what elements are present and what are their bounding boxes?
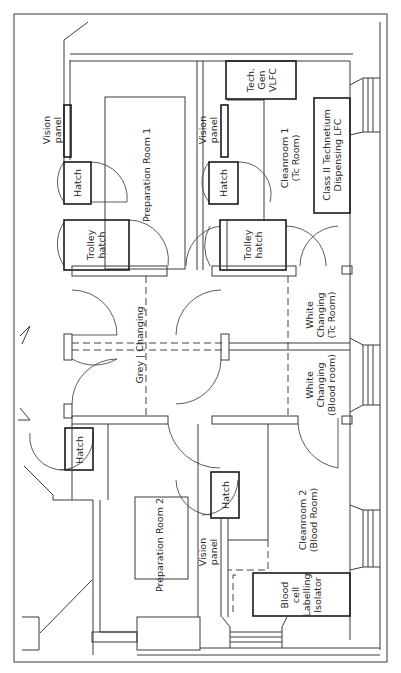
- preparation-room-2-label: Preparation Room 2: [154, 498, 165, 592]
- wall: [221, 334, 229, 360]
- tech-gen-vlfc-label: Tech.GenVLFC: [245, 68, 278, 92]
- wall: [72, 266, 167, 276]
- door-swing: [72, 290, 117, 335]
- door-swing: [57, 220, 168, 266]
- column-moulding: [350, 338, 380, 412]
- cleanroom-2-label: Cleanroom 2(Blood Room): [297, 488, 319, 552]
- door-swing-line: [24, 466, 53, 495]
- door-swing: [168, 424, 220, 468]
- floor-plan: [0, 0, 401, 673]
- door-swing: [202, 162, 271, 202]
- wall: [53, 495, 93, 655]
- wall: [212, 416, 298, 424]
- cleanroom-1-label: Cleanroom 1(Tc Room): [279, 128, 301, 189]
- door-swing-line: [20, 326, 30, 344]
- vision-panel: [221, 105, 228, 157]
- wall: [64, 404, 72, 418]
- wall: [64, 334, 72, 360]
- wall: [92, 632, 137, 642]
- hatch-label: Hatch: [72, 169, 83, 197]
- wall: [137, 617, 200, 650]
- door-swing: [298, 418, 338, 468]
- door-swing: [57, 162, 127, 202]
- trolley-hatch-label: Trolleyhatch: [242, 230, 264, 261]
- wall: [100, 500, 137, 632]
- vision-panel-label: Visionpanel: [41, 116, 63, 144]
- column-moulding: [350, 505, 380, 570]
- white-changing-blood-label: WhiteChanging(Blood room): [304, 354, 337, 416]
- door-swing: [176, 290, 221, 404]
- hatch-label: Hatch: [74, 436, 85, 464]
- dashed-division: [233, 575, 236, 615]
- class-ii-lfc-label: Class II TechnetiumDispensing LFC: [321, 109, 343, 200]
- door-swing-line: [40, 580, 92, 633]
- door-frame: [22, 617, 39, 650]
- door-swing-line: [18, 408, 30, 420]
- vision-panel-label: Visionpanel: [197, 538, 219, 566]
- grey-changing-label: Grey | Changing: [134, 307, 145, 384]
- hatch-label: Hatch: [220, 481, 231, 509]
- column-moulding: [350, 78, 380, 135]
- white-changing-tc-label: WhiteChanging(Tc Room): [304, 292, 337, 339]
- hatch-label: Hatch: [218, 169, 229, 197]
- blood-cell-isolator-label: BloodcellLabellingIsolator: [279, 574, 323, 617]
- column-moulding: [222, 617, 287, 648]
- door-swing: [72, 359, 117, 404]
- door-swing-line: [64, 22, 88, 40]
- preparation-room-1-label: Preparation Room 1: [141, 128, 152, 222]
- vision-panel-label: Visionpanel: [197, 116, 219, 144]
- dashed-division: [228, 540, 268, 570]
- wall: [212, 266, 296, 276]
- wall: [72, 416, 168, 424]
- door-swing: [300, 226, 338, 266]
- trolley-hatch-label: Trolleyhatch: [85, 230, 107, 261]
